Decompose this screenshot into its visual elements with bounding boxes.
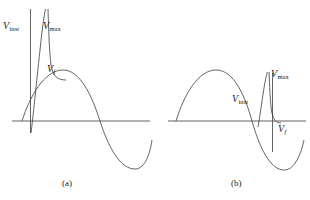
panel-b-label-v-f: Vf	[278, 124, 286, 134]
panel-b-caption: (b)	[231, 178, 242, 188]
panel-b-v-inst-sub: inst	[238, 98, 248, 105]
panel-b-label-v-inst: Vinst	[232, 94, 248, 104]
panel-a-v-inst-sub: inst	[9, 25, 19, 32]
panel-b-sine-wave	[176, 70, 304, 170]
panel-b-graphics	[168, 70, 306, 170]
panel-a-label-v-f: Vf	[47, 64, 55, 74]
panel-a-sine-wave	[22, 70, 152, 169]
panel-a-label-v-inst: Vinst	[3, 21, 19, 31]
panel-a-label-v-max: Vmax	[43, 21, 61, 31]
panel-b-v-max-sub: max	[277, 73, 289, 80]
panel-a-v-max-sub: max	[49, 25, 61, 32]
panel-a-caption: (a)	[62, 178, 72, 188]
panel-b-label-v-max: Vmax	[271, 69, 289, 79]
figure-container: Vinst Vmax Vf Vinst Vmax Vf (a) (b)	[0, 0, 310, 200]
panel-b-v-max-spike-left	[258, 72, 268, 127]
panel-a-graphics	[12, 9, 152, 169]
